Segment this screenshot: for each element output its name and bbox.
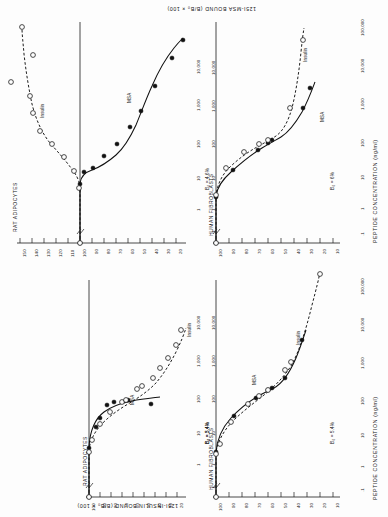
- xtick-top-right-01: .1: [360, 232, 365, 236]
- ytick-br-80: 80: [244, 503, 249, 508]
- ytick-top-left-70: 70: [118, 249, 123, 254]
- xtick-bl-1: 1: [196, 463, 201, 466]
- ytick-top-left-130: 130: [46, 249, 51, 257]
- ytick-top-right-60: 60: [270, 249, 275, 254]
- curve-label-insulin-top-right: Insulin: [303, 48, 308, 62]
- ytick-bl-40: 40: [157, 503, 162, 508]
- ytick-br-60: 60: [270, 503, 275, 508]
- curve-label-insulin-bottom-left: Insulin: [187, 323, 192, 337]
- ytick-top-left-50: 50: [142, 249, 147, 254]
- xtick-inner-tr-01: .1: [211, 230, 216, 234]
- xtick-inner-tr-10000: 10,000: [211, 61, 216, 75]
- curve-label-msa-bottom-right: MSA: [252, 375, 257, 385]
- ytick-br-30: 30: [309, 503, 314, 508]
- ytick-br-100: 100: [218, 503, 223, 511]
- xtick-br-10000: 10,000: [360, 318, 365, 332]
- panel-top-right: [213, 22, 340, 245]
- xtick-br-1000: 1,000: [360, 357, 365, 369]
- xtick-tl-1000: 1,000: [196, 99, 201, 111]
- axis-title-msa-bound: 125I-MSA BOUND (B/B₀ × 100): [167, 6, 256, 12]
- xtick-br-01: .1: [360, 488, 365, 492]
- ytick-top-right-100: 100: [218, 249, 223, 257]
- panel-bottom-left: [86, 280, 186, 499]
- curve-label-msa-top-left: MSA: [127, 93, 132, 103]
- xtick-br-10: 10: [360, 433, 365, 438]
- axis-title-peptide-concentration-2: PEPTIDE CONCENTRATION (ng/ml): [372, 397, 378, 500]
- ytick-top-left-80: 80: [106, 249, 111, 254]
- xtick-tl-1: 1: [196, 208, 201, 211]
- xtick-inner-tr-100: 100: [211, 140, 216, 148]
- ytick-top-left-120: 120: [58, 249, 63, 257]
- xtick-top-right-1: 1: [360, 207, 365, 210]
- ytick-top-left-20: 20: [178, 249, 183, 254]
- ytick-top-right-70: 70: [257, 249, 262, 254]
- ytick-bl-30: 30: [168, 503, 173, 508]
- xtick-inner-tr-1: 1: [211, 208, 216, 211]
- ytick-top-left-60: 60: [130, 249, 135, 254]
- xtick-br-100000: 100,000: [360, 278, 365, 295]
- b-zero-top-left: B₀ = 6%: [330, 172, 335, 190]
- xtick-bl-100: 100: [196, 395, 201, 403]
- axis-title-peptide-concentration: PEPTIDE CONCENTRATION (ng/ml): [372, 140, 378, 243]
- ytick-bl-50: 50: [146, 503, 151, 508]
- ytick-bl-20: 20: [179, 503, 184, 508]
- ytick-top-right-20: 20: [322, 249, 327, 254]
- b-zero-bl: B₀ = 3.4%: [205, 422, 210, 444]
- ytick-bl-80: 80: [113, 503, 118, 508]
- xtick-br-1: 1: [360, 465, 365, 468]
- xtick-top-right-100000: 100,000: [360, 19, 365, 36]
- ytick-top-left-100: 100: [82, 249, 87, 257]
- ytick-br-90: 90: [231, 503, 236, 508]
- xtick-bl-10: 10: [196, 431, 201, 436]
- panel-bottom-right: [213, 272, 340, 500]
- b-zero-top-right: B₀ = 4.6%: [205, 168, 210, 190]
- xtick-top-right-10: 10: [360, 175, 365, 180]
- xtick-top-right-10000: 10,000: [360, 59, 365, 73]
- xtick-bl-10000: 10,000: [196, 316, 201, 330]
- xtick-inner-tr-10: 10: [211, 176, 216, 181]
- ytick-top-left-110: 110: [70, 250, 75, 257]
- ytick-top-left-150: 150: [22, 249, 27, 257]
- ytick-bl-60: 60: [135, 503, 140, 508]
- ytick-top-right-50: 50: [283, 249, 288, 254]
- panel-top-left: [9, 22, 186, 245]
- figure-canvas: 125I-MSA BOUND (B/B₀ × 100) 125I-INSULIN…: [0, 0, 388, 517]
- ytick-top-right-40: 40: [296, 249, 301, 254]
- xtick-inner-br-10: 10: [211, 431, 216, 436]
- panel-title-bottom-left: RAT ADIPOCYTES: [82, 436, 88, 486]
- xtick-tl-100: 100: [196, 140, 201, 148]
- ytick-bl-100: 100: [91, 503, 96, 511]
- ytick-top-left-40: 40: [154, 249, 159, 254]
- ytick-top-left-30: 30: [166, 249, 171, 254]
- xtick-inner-tr-1000: 1,000: [211, 100, 216, 112]
- xtick-inner-br-1: 1: [211, 463, 216, 466]
- ytick-br-10: 10: [335, 503, 340, 508]
- ytick-br-40: 40: [296, 503, 301, 508]
- xtick-inner-br-100: 100: [211, 395, 216, 403]
- ytick-br-50: 50: [283, 503, 288, 508]
- ytick-br-20: 20: [322, 503, 327, 508]
- xtick-top-right-100: 100: [360, 139, 365, 147]
- xtick-br-100: 100: [360, 397, 365, 405]
- xtick-bl-1000: 1,000: [196, 355, 201, 367]
- xtick-tl-10: 10: [196, 176, 201, 181]
- ytick-top-left-140: 140: [34, 249, 39, 257]
- xtick-inner-br-10000: 10,000: [211, 316, 216, 330]
- xtick-inner-br-01: .1: [211, 486, 216, 490]
- b-zero-br-54: B₀ = 5.4%: [330, 422, 335, 444]
- curve-label-insulin-bottom-right: Insulin: [296, 331, 301, 345]
- curve-label-msa-bottom-left: MSA: [130, 395, 135, 405]
- ytick-top-right-90: 90: [231, 249, 236, 254]
- ytick-top-right-30: 30: [309, 249, 314, 254]
- curve-label-msa-top-right: MSA: [320, 112, 325, 122]
- ytick-bl-70: 70: [124, 503, 129, 508]
- ytick-top-right-10: 10: [335, 249, 340, 254]
- xtick-top-right-1000: 1,000: [360, 98, 365, 110]
- ytick-bl-90: 90: [102, 503, 107, 508]
- xtick-tl-10000: 10,000: [196, 60, 201, 74]
- curve-label-insulin-top-left: Insulin: [40, 104, 45, 118]
- ytick-top-left-90: 90: [94, 249, 99, 254]
- panel-title-top-left: RAT ADIPOCYTES: [12, 182, 18, 232]
- ytick-top-right-80: 80: [244, 249, 249, 254]
- xtick-inner-br-1000: 1,000: [211, 355, 216, 367]
